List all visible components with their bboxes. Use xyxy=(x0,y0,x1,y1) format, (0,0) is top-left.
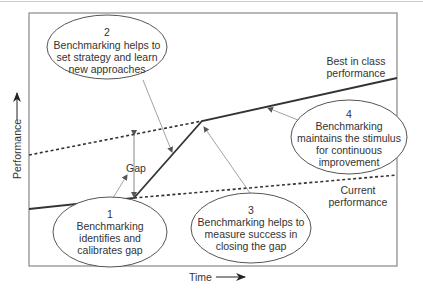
callout-4-line-3: for continuous xyxy=(316,144,382,156)
callout-2-line-1: Benchmarking helps to xyxy=(54,39,161,51)
callout-4-line-4: improvement xyxy=(319,156,380,168)
callout-1-number: 1 xyxy=(107,208,113,220)
callout-4-line-1: Benchmarking xyxy=(315,120,382,132)
callout-1-pointer xyxy=(113,175,127,198)
callout-4-number: 4 xyxy=(346,108,352,120)
callout-2-line-3: new approaches xyxy=(68,63,145,75)
callout-2-pointer xyxy=(143,80,172,152)
gap-label: Gap xyxy=(126,162,146,174)
x-axis-label: Time xyxy=(189,271,245,283)
best-in-class-label-line-2: performance xyxy=(327,67,386,79)
callout-3-pointer xyxy=(204,127,250,193)
callout-3-number: 3 xyxy=(248,204,254,216)
current-performance-label: Current performance xyxy=(329,184,388,208)
callout-3-line-2: measure success in xyxy=(205,228,298,240)
callout-3-line-3: closing the gap xyxy=(216,240,287,252)
y-axis-label: Performance xyxy=(11,93,23,179)
y-axis-label-text: Performance xyxy=(11,119,23,179)
callout-1-line-3: calibrates gap xyxy=(77,244,143,256)
benchmarking-diagram: 2 Benchmarking helps to set strategy and… xyxy=(0,0,423,294)
callout-1-line-2: identifies and xyxy=(79,232,141,244)
best-in-class-label-line-1: Best in class xyxy=(327,55,386,67)
best-in-class-label: Best in class performance xyxy=(327,55,386,79)
callout-2-number: 2 xyxy=(104,26,110,38)
x-axis-label-text: Time xyxy=(189,271,212,283)
callout-3-line-1: Benchmarking helps to xyxy=(198,216,305,228)
callout-1-line-1: Benchmarking xyxy=(76,220,143,232)
current-performance-label-line-2: performance xyxy=(329,196,388,208)
current-performance-label-line-1: Current xyxy=(340,184,375,196)
callout-4-line-2: maintains the stimulus xyxy=(297,132,401,144)
callout-2-line-2: set strategy and learn xyxy=(57,51,158,63)
